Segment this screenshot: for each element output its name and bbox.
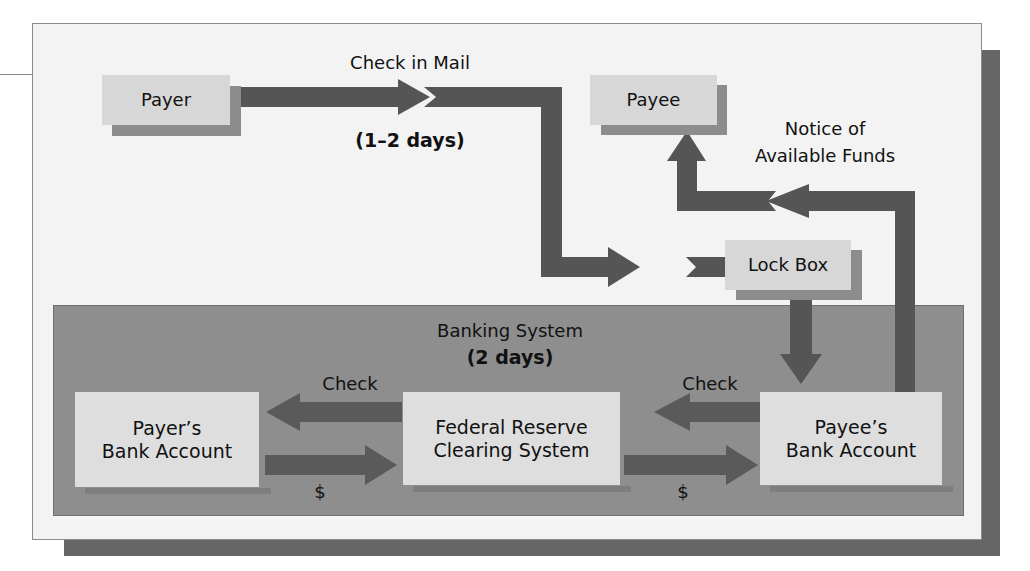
fed-label-1: Federal Reserve xyxy=(435,416,587,438)
fed-label-2: Clearing System xyxy=(434,439,590,461)
payers-bank-node: Payer’s Bank Account xyxy=(75,392,259,487)
dollar-arrow-right xyxy=(624,445,758,485)
check-label-left: Check xyxy=(310,373,390,394)
check-arrow-left xyxy=(266,393,402,431)
payees-bank-node: Payee’s Bank Account xyxy=(760,392,942,485)
check-in-mail-label: Check in Mail xyxy=(330,52,490,73)
payers-bank-label-1: Payer’s xyxy=(133,417,202,439)
dollar-arrow-left xyxy=(265,445,397,485)
payer-node: Payer xyxy=(102,75,230,125)
lockbox-down-arrow xyxy=(780,290,822,384)
payees-bank-label-1: Payee’s xyxy=(815,416,888,438)
payee-label: Payee xyxy=(627,89,681,110)
lock-box-node: Lock Box xyxy=(725,240,851,290)
mail-time-label: (1–2 days) xyxy=(330,129,490,151)
payers-bank-shadow xyxy=(85,488,271,494)
payees-bank-shadow xyxy=(770,486,953,492)
dollar-label-right: $ xyxy=(668,481,698,502)
lock-box-label: Lock Box xyxy=(748,254,828,275)
dollar-label-left: $ xyxy=(305,481,335,502)
payee-node: Payee xyxy=(590,75,717,125)
check-in-mail-arrow xyxy=(232,79,430,115)
payer-label: Payer xyxy=(141,89,191,110)
fed-shadow xyxy=(413,486,631,492)
check-arrow-right xyxy=(654,393,760,431)
payees-bank-label-2: Bank Account xyxy=(786,439,916,461)
notice-label-1: Notice of xyxy=(740,118,910,139)
banking-system-label: Banking System xyxy=(410,320,610,341)
fed-reserve-node: Federal Reserve Clearing System xyxy=(403,392,620,485)
payers-bank-label-2: Bank Account xyxy=(102,440,232,462)
notice-label-2: Available Funds xyxy=(740,145,910,166)
banking-time-label: (2 days) xyxy=(410,346,610,368)
check-label-right: Check xyxy=(670,373,750,394)
